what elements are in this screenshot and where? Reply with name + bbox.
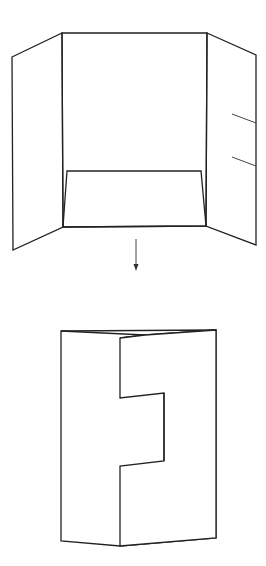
card-slit-upper <box>232 114 256 123</box>
right-flap <box>206 33 256 245</box>
diagram-canvas <box>0 0 266 566</box>
left-flap <box>12 33 63 250</box>
fold-arrow-icon <box>134 239 139 271</box>
pocket <box>63 171 206 227</box>
folder-fold-diagram <box>0 0 266 566</box>
closed-folder <box>61 330 216 546</box>
open-folder <box>12 33 256 250</box>
center-panel <box>62 33 207 227</box>
card-slit-lower <box>232 157 256 166</box>
